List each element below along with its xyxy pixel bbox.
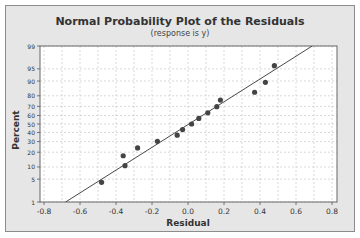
x-tick-label: 0.2 — [218, 207, 230, 216]
y-axis-label: Percent — [11, 105, 21, 155]
data-point — [263, 80, 268, 85]
y-tick-label: 5 — [31, 176, 35, 183]
y-tick-label: 60 — [27, 112, 35, 119]
data-point — [205, 110, 210, 115]
data-point — [272, 63, 277, 68]
y-tick-label: 1 — [31, 199, 35, 206]
x-tick-label: -0.6 — [73, 207, 88, 216]
x-tick-label: -0.4 — [109, 207, 124, 216]
data-point — [180, 127, 185, 132]
data-point — [252, 90, 257, 95]
y-tick-label: 70 — [27, 103, 35, 110]
plot-area: 151020304050607080909599-0.8-0.6-0.4-0.2… — [0, 0, 360, 238]
data-point — [189, 121, 194, 126]
x-tick-label: 0.4 — [254, 207, 266, 216]
y-tick-label: 50 — [27, 121, 35, 128]
data-point — [175, 133, 180, 138]
y-tick-label: 10 — [27, 163, 35, 170]
data-point — [155, 139, 160, 144]
data-point — [121, 153, 126, 158]
y-tick-label: 99 — [27, 43, 35, 50]
x-tick-label: 0.6 — [290, 207, 302, 216]
data-point — [135, 145, 140, 150]
y-tick-label: 20 — [27, 149, 35, 156]
data-point — [214, 104, 219, 109]
x-tick-label: 0.0 — [182, 207, 194, 216]
data-point — [122, 163, 127, 168]
y-tick-label: 40 — [27, 129, 35, 136]
x-tick-label: -0.8 — [37, 207, 52, 216]
y-tick-label: 90 — [27, 78, 35, 85]
data-point — [218, 98, 223, 103]
y-tick-label: 80 — [27, 92, 35, 99]
x-tick-label: -0.2 — [145, 207, 160, 216]
data-point — [196, 116, 201, 121]
data-point — [99, 180, 104, 185]
x-tick-label: 0.8 — [326, 207, 338, 216]
y-tick-label: 95 — [27, 65, 35, 72]
x-axis-label: Residual — [0, 218, 360, 228]
y-tick-label: 30 — [27, 138, 35, 145]
